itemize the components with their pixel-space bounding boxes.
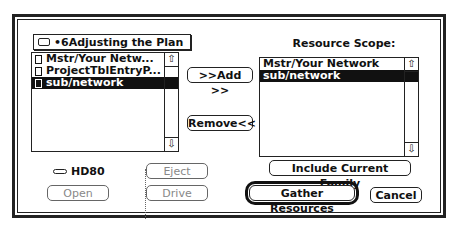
- scroll-up-arrow-icon[interactable]: ⇧: [405, 58, 418, 72]
- file-list-scrollbar[interactable]: ⇧ ⇩: [164, 53, 178, 151]
- remove-button[interactable]: Remove<<: [187, 115, 253, 131]
- document-icon: [35, 55, 42, 64]
- folder-icon: [38, 38, 50, 46]
- open-button[interactable]: Open: [47, 185, 109, 201]
- eject-button[interactable]: Eject: [146, 163, 208, 179]
- scope-list-item-selected[interactable]: sub/network: [260, 70, 418, 82]
- file-list-item-label: ProjectTblEntryP...: [46, 65, 161, 77]
- disk-label: HD80: [71, 165, 105, 178]
- folder-popup-label: •6Adjusting the Plan: [54, 36, 183, 49]
- disk-name: HD80: [53, 165, 105, 178]
- scroll-down-arrow-icon[interactable]: ⇩: [405, 142, 418, 156]
- cancel-button[interactable]: Cancel: [370, 187, 422, 203]
- drive-button[interactable]: Drive: [146, 185, 208, 201]
- file-list-item-label: sub/network: [46, 77, 123, 89]
- scroll-down-arrow-icon[interactable]: ⇩: [165, 137, 178, 151]
- file-list-item-selected[interactable]: sub/network: [32, 77, 178, 89]
- scope-list-scrollbar[interactable]: ⇧ ⇩: [404, 58, 418, 156]
- gather-resources-dialog: •6Adjusting the Plan Mstr/Your Netw... P…: [12, 14, 446, 218]
- document-icon: [35, 67, 42, 76]
- resource-scope-list[interactable]: Mstr/Your Network sub/network ⇧ ⇩: [259, 57, 419, 157]
- scope-list-item[interactable]: Mstr/Your Network: [260, 58, 418, 70]
- add-button[interactable]: >>Add >>: [187, 67, 253, 83]
- resource-scope-heading: Resource Scope:: [269, 37, 419, 50]
- file-list-item[interactable]: Mstr/Your Netw...: [32, 53, 178, 65]
- folder-popup-menu[interactable]: •6Adjusting the Plan: [33, 34, 191, 50]
- gather-resources-button[interactable]: Gather Resources: [249, 185, 355, 201]
- document-icon: [35, 79, 42, 88]
- file-list-item-label: Mstr/Your Netw...: [46, 53, 154, 65]
- hard-disk-icon: [53, 169, 67, 174]
- file-list[interactable]: Mstr/Your Netw... ProjectTblEntryP... su…: [31, 52, 179, 152]
- include-current-family-button[interactable]: Include Current Family: [269, 160, 411, 176]
- file-list-item[interactable]: ProjectTblEntryP...: [32, 65, 178, 77]
- scroll-up-arrow-icon[interactable]: ⇧: [165, 53, 178, 67]
